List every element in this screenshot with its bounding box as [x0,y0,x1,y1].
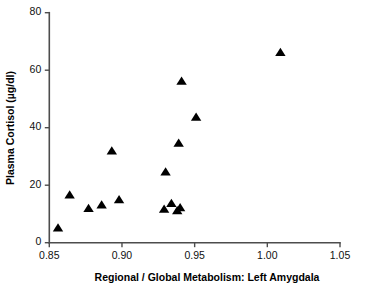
data-point-marker [275,48,285,56]
data-point-marker [83,204,93,212]
x-axis-title: Regional / Global Metabolism: Left Amygd… [95,271,320,283]
y-tick-label: 20 [30,178,42,190]
x-tick-label: 0.85 [39,249,60,261]
y-tick-label: 60 [30,63,42,75]
y-tick-label: 0 [35,235,41,247]
data-point-marker [64,190,74,198]
data-point-marker [191,113,201,121]
y-axis-title: Plasma Cortisol (µg/dl) [4,71,16,185]
x-axis: 0.850.900.951.001.05 [39,243,350,261]
data-point-marker [166,199,176,207]
x-tick-label: 1.00 [257,249,278,261]
data-point-marker [53,223,63,231]
y-tick-label: 80 [30,5,42,17]
y-axis: 020406080 [30,5,50,247]
y-tick-label: 40 [30,120,42,132]
plot-canvas: 020406080 0.850.900.951.001.05 Regional … [0,0,366,288]
data-point-marker [176,77,186,85]
scatter-chart-figure: 020406080 0.850.900.951.001.05 Regional … [0,0,366,288]
data-point-marker [96,200,106,208]
data-point-marker [173,138,183,146]
data-point-marker [160,167,170,175]
x-tick-label: 0.90 [112,249,133,261]
x-tick-label: 1.05 [330,249,351,261]
data-markers [53,48,286,232]
x-tick-label: 0.95 [184,249,205,261]
data-point-marker [114,195,124,203]
data-point-marker [107,146,117,154]
